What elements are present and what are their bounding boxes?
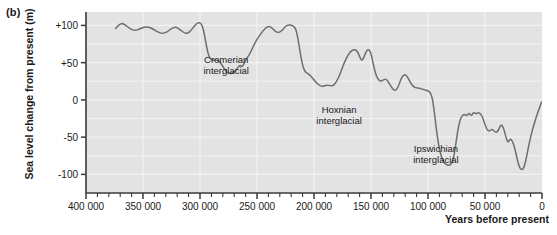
- interglacial-annotation: Cromerianinterglacial: [204, 53, 249, 76]
- annotation-line-1: Ipswichian: [413, 142, 458, 154]
- x-tick-label: 0: [507, 201, 557, 212]
- annotation-line-2: interglacial: [413, 154, 458, 166]
- y-tick-label: 0: [32, 94, 78, 105]
- annotation-line-1: Hoxnian: [316, 103, 361, 115]
- interglacial-annotation: Hoxnianinterglacial: [316, 103, 361, 126]
- y-tick-label: -100: [32, 169, 78, 180]
- annotation-line-2: interglacial: [316, 115, 361, 127]
- y-tick-label: +100: [32, 20, 78, 31]
- annotation-line-1: Cromerian: [204, 53, 249, 65]
- interglacial-annotation: Ipswichianinterglacial: [413, 142, 458, 165]
- y-tick-label: -50: [32, 132, 78, 143]
- y-tick-label: +50: [32, 57, 78, 68]
- sea-level-chart: [0, 0, 557, 235]
- annotation-line-2: interglacial: [204, 65, 249, 77]
